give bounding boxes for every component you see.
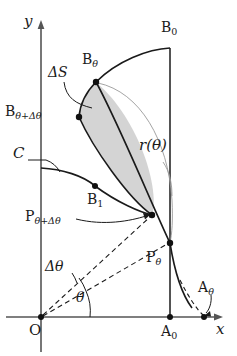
point-btheta	[93, 79, 99, 85]
label-b0-sub: 0	[171, 26, 177, 37]
label-b0: B0	[161, 20, 177, 36]
label-b1-base: B	[87, 191, 97, 207]
label-b-theta-plus-base: B	[5, 103, 15, 119]
point-a0	[167, 314, 173, 320]
curve-b0-btheta	[96, 48, 170, 82]
label-p-theta-plus: Pθ+Δθ	[25, 209, 61, 225]
label-angle-theta: θ	[76, 290, 84, 304]
curve-ptheta-to-atheta	[170, 243, 192, 308]
label-b1: B1	[87, 192, 103, 208]
point-bthetaplus	[76, 114, 82, 120]
label-b-theta-base: B	[82, 51, 92, 67]
label-delta-s: ΔS	[48, 65, 68, 79]
label-b0-base: B	[161, 19, 171, 35]
origin-label: O	[29, 323, 41, 338]
x-axis-label: x	[216, 322, 224, 337]
label-a-theta-base: A	[198, 279, 208, 295]
arrow-atheta	[206, 295, 211, 313]
y-axis-arrowhead	[38, 20, 45, 29]
label-p-theta: Pθ	[146, 250, 161, 266]
label-p-theta-base: P	[146, 249, 155, 265]
label-a-theta-sub: θ	[208, 286, 214, 297]
label-r-theta: r(θ)	[139, 138, 167, 153]
y-axis-label: y	[24, 14, 32, 29]
label-curve-c: C	[13, 146, 24, 161]
label-b-theta-plus-sub: θ+Δθ	[15, 110, 41, 121]
point-atheta	[201, 314, 207, 320]
label-p-theta-plus-base: P	[25, 208, 34, 224]
label-p-theta-plus-sub: θ+Δθ	[34, 215, 60, 226]
point-b1	[92, 183, 98, 189]
label-b-theta: Bθ	[82, 52, 98, 68]
label-b-theta-sub: θ	[92, 58, 98, 69]
angle-arc-theta	[86, 291, 90, 317]
point-o	[38, 314, 44, 320]
angle-arc-delta-theta-outer	[72, 273, 77, 283]
point-pthetaplus	[149, 212, 155, 218]
label-p-theta-sub: θ	[155, 256, 161, 267]
point-ptheta	[167, 240, 173, 246]
label-b-theta-plus: Bθ+Δθ	[5, 104, 42, 120]
label-b1-sub: 1	[97, 198, 103, 209]
label-a0-base: A	[161, 323, 171, 339]
geometry-figure	[0, 0, 237, 356]
arrow-pthetaplus	[76, 216, 146, 222]
figure-canvas: y x O B0 Bθ Bθ+Δθ B1 Pθ Pθ+Δθ A0 Aθ C ΔS…	[0, 0, 237, 356]
label-a0-sub: 0	[171, 330, 177, 341]
label-a0: A0	[161, 324, 177, 340]
label-a-theta: Aθ	[198, 280, 214, 296]
label-angle-delta-theta: Δθ	[45, 259, 64, 273]
